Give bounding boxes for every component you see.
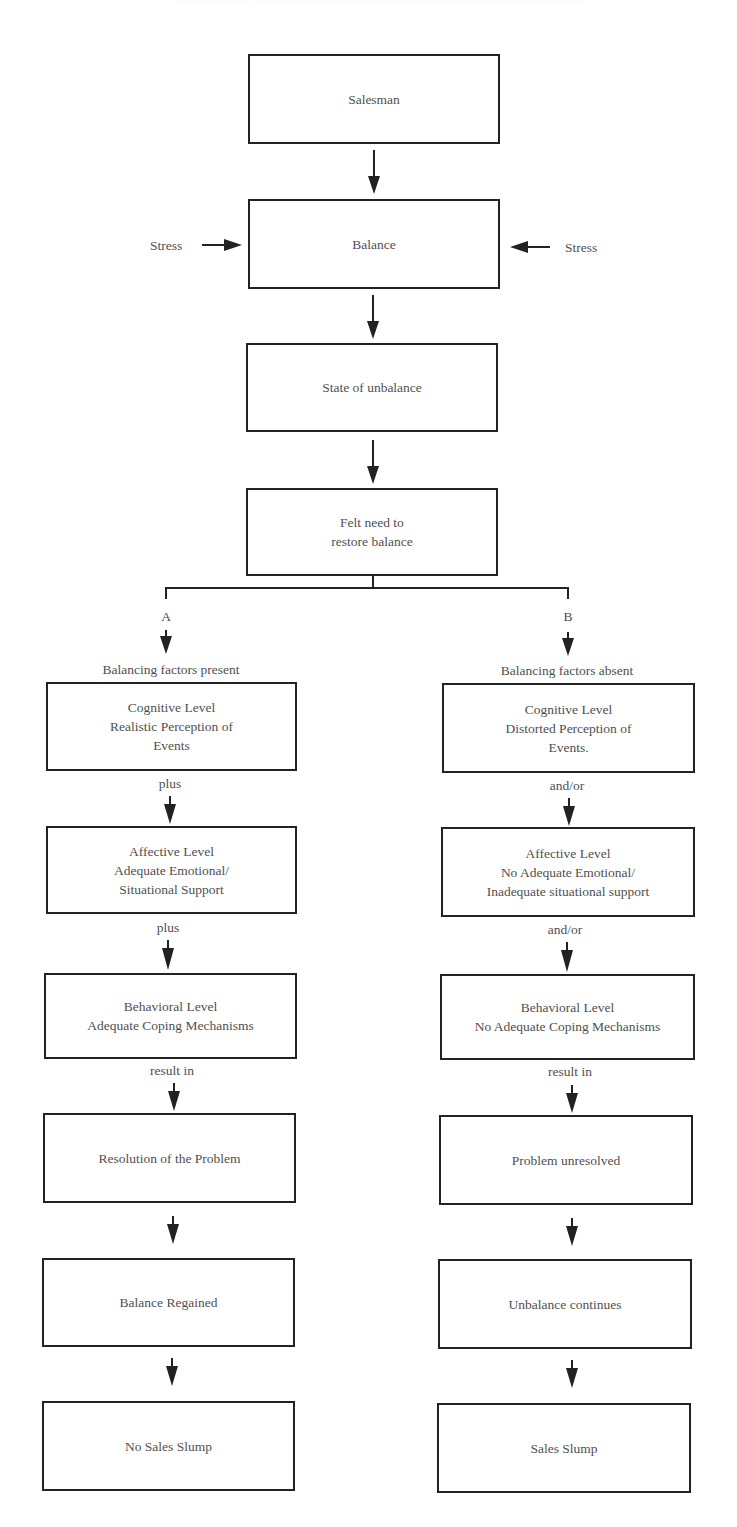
- node-a-cognitive-line-1: Cognitive Level: [128, 698, 215, 717]
- node-b-resolution: Problem unresolved: [439, 1115, 693, 1205]
- node-b-unbalance-continues-label: Unbalance continues: [509, 1295, 622, 1314]
- arrow-down-icon: [368, 150, 380, 194]
- node-salesman-label: Salesman: [348, 90, 400, 109]
- stress-left-label: Stress: [150, 238, 182, 254]
- arrow-down-icon: [164, 796, 176, 824]
- node-b-affective-line-3: Inadequate situational support: [487, 882, 650, 901]
- clipped-header-text: [175, 0, 585, 1]
- node-a-cognitive-line-3: Events: [153, 736, 190, 755]
- node-a-outcome: No Sales Slump: [42, 1401, 295, 1491]
- arrow-down-icon: [563, 798, 575, 826]
- branch-b-header: Balancing factors absent: [501, 663, 634, 679]
- branch-crossbar: [165, 587, 569, 589]
- connector-b-3: result in: [548, 1064, 592, 1080]
- node-balance: Balance: [248, 199, 500, 289]
- connector-a-1: plus: [159, 776, 182, 792]
- node-a-affective-line-3: Situational Support: [119, 880, 224, 899]
- arrow-down-icon: [166, 1358, 178, 1386]
- node-a-resolution-label: Resolution of the Problem: [98, 1149, 240, 1168]
- branch-a-letter: A: [161, 609, 171, 625]
- node-b-unbalance-continues: Unbalance continues: [438, 1259, 692, 1349]
- node-a-affective: Affective Level Adequate Emotional/ Situ…: [46, 826, 297, 914]
- node-a-resolution: Resolution of the Problem: [43, 1113, 296, 1203]
- node-a-outcome-label: No Sales Slump: [125, 1437, 212, 1456]
- node-b-outcome-label: Sales Slump: [530, 1439, 597, 1458]
- arrow-down-icon: [566, 1360, 578, 1388]
- node-b-outcome: Sales Slump: [437, 1403, 691, 1493]
- node-a-balance-regained: Balance Regained: [42, 1258, 295, 1347]
- node-b-behavioral: Behavioral Level No Adequate Coping Mech…: [440, 974, 695, 1060]
- node-a-affective-line-2: Adequate Emotional/: [114, 861, 229, 880]
- node-state-of-unbalance-label: State of unbalance: [322, 378, 422, 397]
- node-a-behavioral-line-1: Behavioral Level: [124, 997, 217, 1016]
- arrow-down-icon: [162, 940, 174, 970]
- node-felt-need: Felt need to restore balance: [246, 488, 498, 576]
- node-b-cognitive: Cognitive Level Distorted Perception of …: [442, 683, 695, 773]
- node-a-cognitive-line-2: Realistic Perception of: [110, 717, 233, 736]
- node-a-balance-regained-label: Balance Regained: [120, 1293, 218, 1312]
- arrow-down-icon: [367, 295, 379, 339]
- branch-a-header: Balancing factors present: [102, 662, 239, 678]
- node-b-behavioral-line-2: No Adequate Coping Mechanisms: [475, 1017, 661, 1036]
- arrow-down-icon: [167, 1216, 179, 1244]
- node-felt-need-line-1: Felt need to: [340, 513, 404, 532]
- node-a-affective-line-1: Affective Level: [129, 842, 214, 861]
- connector-b-2: and/or: [548, 922, 583, 938]
- connector-a-2: plus: [157, 920, 180, 936]
- arrow-down-icon: [168, 1083, 180, 1111]
- node-a-behavioral-line-2: Adequate Coping Mechanisms: [87, 1016, 253, 1035]
- arrow-left-icon: [510, 241, 550, 253]
- node-balance-label: Balance: [352, 235, 395, 254]
- node-b-behavioral-line-1: Behavioral Level: [521, 998, 614, 1017]
- arrow-down-icon: [566, 1085, 578, 1113]
- arrow-down-icon: [160, 630, 172, 654]
- arrow-down-icon: [367, 440, 379, 484]
- arrow-down-icon: [561, 942, 573, 972]
- node-b-cognitive-line-3: Events.: [548, 738, 588, 757]
- branch-b-letter: B: [563, 609, 572, 625]
- node-b-cognitive-line-2: Distorted Perception of: [506, 719, 632, 738]
- branch-a-drop: [165, 587, 167, 599]
- node-felt-need-line-2: restore balance: [331, 532, 412, 551]
- arrow-down-icon: [562, 632, 574, 656]
- node-salesman: Salesman: [248, 54, 500, 144]
- node-b-affective-line-2: No Adequate Emotional/: [501, 863, 635, 882]
- connector-b-1: and/or: [550, 778, 585, 794]
- node-b-resolution-label: Problem unresolved: [512, 1151, 620, 1170]
- branch-b-drop: [567, 587, 569, 599]
- arrow-down-icon: [566, 1218, 578, 1246]
- arrow-right-icon: [202, 239, 242, 251]
- stress-right-label: Stress: [565, 240, 597, 256]
- node-b-affective: Affective Level No Adequate Emotional/ I…: [441, 827, 695, 917]
- node-state-of-unbalance: State of unbalance: [246, 343, 498, 432]
- node-b-affective-line-1: Affective Level: [526, 844, 611, 863]
- node-a-behavioral: Behavioral Level Adequate Coping Mechani…: [44, 973, 297, 1059]
- connector-a-3: result in: [150, 1063, 194, 1079]
- node-a-cognitive: Cognitive Level Realistic Perception of …: [46, 682, 297, 771]
- node-b-cognitive-line-1: Cognitive Level: [525, 700, 612, 719]
